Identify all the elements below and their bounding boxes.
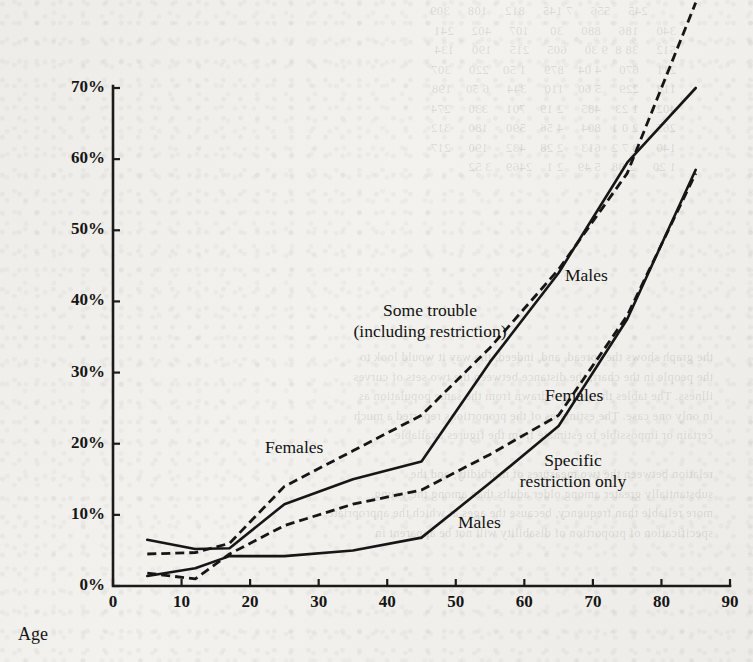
chart-annotation: Males xyxy=(565,265,608,286)
annotation-line: Females xyxy=(265,437,323,458)
x-axis-tick-label: 50 xyxy=(436,592,476,612)
annotation-line: Females xyxy=(545,385,603,406)
x-axis-tick-label: 70 xyxy=(573,592,613,612)
y-axis-tick-label: 20% xyxy=(47,433,105,453)
chart-annotation: Females xyxy=(265,437,323,458)
chart-annotation: Females xyxy=(545,385,603,406)
series-line-3 xyxy=(147,173,695,579)
chart-annotation: Specificrestriction only xyxy=(520,450,626,492)
x-axis-tick-label: 80 xyxy=(641,592,681,612)
y-axis-tick-label: 50% xyxy=(47,219,105,239)
x-axis-tick-label: 20 xyxy=(230,592,270,612)
y-axis-tick-label: 70% xyxy=(47,77,105,97)
scanned-page: 245 556 7 145 812 108 309 340 186 880 30… xyxy=(0,0,753,662)
x-axis-title: Age xyxy=(18,624,48,645)
annotation-line: Males xyxy=(565,265,608,286)
x-axis-tick-label: 0 xyxy=(93,592,133,612)
chart-annotation: Some trouble(including restriction) xyxy=(353,300,506,342)
chart-annotation: Males xyxy=(458,512,501,533)
annotation-line: Specific xyxy=(520,450,626,471)
x-axis-tick-label: 10 xyxy=(162,592,202,612)
y-axis-tick-label: 30% xyxy=(47,362,105,382)
y-axis-tick-label: 60% xyxy=(47,148,105,168)
annotation-line: Some trouble xyxy=(353,300,506,321)
annotation-line: restriction only xyxy=(520,471,626,492)
y-axis-tick-label: 40% xyxy=(47,290,105,310)
y-axis-tick-label: 10% xyxy=(47,504,105,524)
annotation-line: Males xyxy=(458,512,501,533)
x-axis-tick-label: 60 xyxy=(504,592,544,612)
annotation-line: (including restriction) xyxy=(353,321,506,342)
series-line-4 xyxy=(147,170,695,576)
x-axis-tick-label: 30 xyxy=(299,592,339,612)
x-axis-tick-label: 90 xyxy=(710,592,750,612)
x-axis-tick-label: 40 xyxy=(367,592,407,612)
